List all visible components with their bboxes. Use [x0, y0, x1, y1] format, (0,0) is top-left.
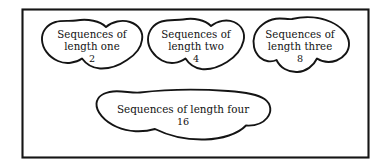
set-count-length-one: 2 [89, 53, 95, 64]
set-count-length-three: 8 [297, 53, 303, 64]
set-label-line1-length-two: Sequences of [161, 29, 232, 40]
set-label-line2-length-three: length three [268, 41, 332, 52]
set-label-line1-length-three: Sequences of [265, 29, 336, 40]
set-label-line1-length-one: Sequences of [57, 29, 128, 40]
set-blob-length-four: Sequences of length four 16 [96, 90, 270, 140]
set-count-length-two: 4 [193, 53, 199, 64]
set-label-line1-length-four: Sequences of length four [117, 103, 249, 115]
set-blob-length-three: Sequences of length three 8 [253, 17, 349, 72]
set-blob-length-two: Sequences of length two 4 [148, 19, 244, 69]
figure-canvas: Sequences of length one 2 Sequences of l… [0, 0, 387, 167]
set-label-line2-length-one: length one [64, 41, 120, 52]
set-label-line2-length-two: length two [168, 41, 224, 52]
set-blob-length-one: Sequences of length one 2 [42, 20, 142, 69]
set-count-length-four: 16 [177, 116, 189, 127]
set-diagram: Sequences of length one 2 Sequences of l… [0, 0, 387, 167]
